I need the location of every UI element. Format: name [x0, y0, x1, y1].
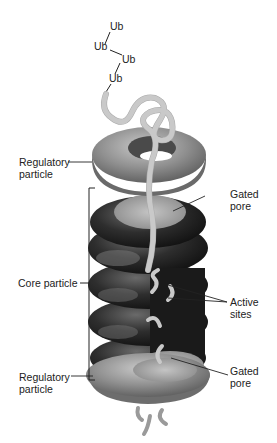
label-regulatory-particle-bottom: Regulatory particle: [19, 371, 70, 395]
ubiquitin-label-2: Ub: [94, 40, 107, 52]
label-gated-pore-bottom: Gated pore: [230, 365, 259, 389]
regulatory-particle-bottom: [86, 353, 210, 404]
proteasome-diagram: Ub Ub Ub Ub Regulatory particle Gated po…: [0, 0, 277, 443]
label-core-particle: Core particle: [18, 277, 78, 289]
ubiquitin-label-4: Ub: [109, 72, 122, 84]
core-particle-rings: [88, 195, 208, 380]
ubiquitin-label-3: Ub: [122, 53, 135, 65]
label-active-sites: Active sites: [230, 296, 259, 320]
label-regulatory-particle-top: Regulatory particle: [19, 156, 70, 180]
label-gated-pore-top: Gated pore: [230, 188, 259, 212]
ubiquitin-label-1: Ub: [110, 20, 123, 32]
